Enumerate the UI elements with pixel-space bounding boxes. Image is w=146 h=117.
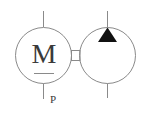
motor-port-label: P bbox=[50, 93, 56, 105]
pump-symbol bbox=[80, 11, 136, 98]
hydraulic-diagram: M P bbox=[0, 0, 146, 117]
shaft-coupling bbox=[72, 51, 81, 61]
flow-direction-triangle-icon bbox=[98, 28, 117, 43]
motor-label: M bbox=[32, 38, 57, 69]
electric-motor-symbol: M P bbox=[16, 11, 72, 105]
coupling-box bbox=[72, 51, 81, 61]
